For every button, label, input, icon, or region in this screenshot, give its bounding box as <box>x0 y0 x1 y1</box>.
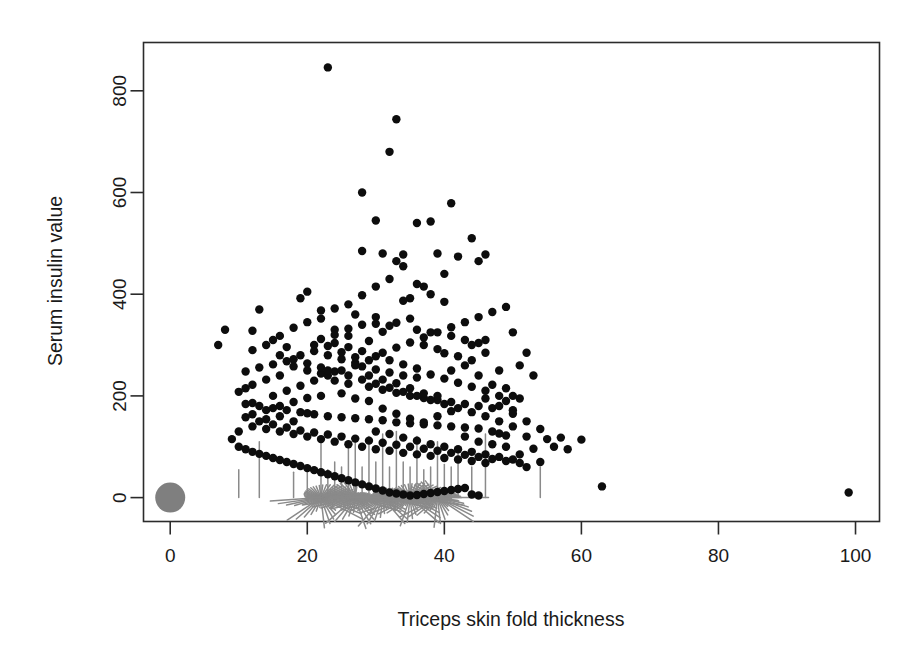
data-point <box>440 443 448 451</box>
data-point <box>358 188 366 196</box>
data-point <box>324 430 332 438</box>
data-point <box>262 425 270 433</box>
data-point <box>474 313 482 321</box>
data-point <box>420 389 428 397</box>
data-point <box>481 412 489 420</box>
data-point <box>481 394 489 402</box>
data-point <box>447 422 455 430</box>
y-tick-label-400: 400 <box>109 278 130 310</box>
data-point <box>474 437 482 445</box>
plot-canvas: 020406080100 0200400600800 Triceps skin … <box>0 0 917 653</box>
data-point <box>392 343 400 351</box>
data-point <box>481 450 489 458</box>
data-point <box>433 421 441 429</box>
data-point <box>262 415 270 423</box>
data-point <box>269 360 277 368</box>
data-point <box>495 402 503 410</box>
data-point <box>598 482 606 490</box>
data-point <box>248 422 256 430</box>
data-point <box>372 445 380 453</box>
y-axis-title: Serum insulin value <box>44 196 66 366</box>
data-point <box>378 328 386 336</box>
y-tick-label-0: 0 <box>109 492 130 503</box>
data-point <box>255 305 263 313</box>
data-point <box>358 321 366 329</box>
figure-background <box>0 0 917 653</box>
data-point <box>481 336 489 344</box>
data-point <box>481 459 489 467</box>
data-point <box>392 418 400 426</box>
data-point <box>283 343 291 351</box>
data-point <box>420 341 428 349</box>
data-point <box>481 348 489 356</box>
data-point <box>344 300 352 308</box>
data-point <box>344 371 352 379</box>
data-point <box>516 450 524 458</box>
y-tick-label-800: 800 <box>109 75 130 107</box>
x-tick-label-0: 0 <box>165 545 176 566</box>
data-point <box>289 417 297 425</box>
data-point <box>454 352 462 360</box>
data-point <box>372 427 380 435</box>
data-point <box>461 361 469 369</box>
y-tick-label-600: 600 <box>109 177 130 209</box>
data-point <box>536 458 544 466</box>
data-point <box>351 310 359 318</box>
data-point <box>468 341 476 349</box>
data-point <box>447 199 455 207</box>
data-point <box>426 217 434 225</box>
data-point <box>522 417 530 425</box>
data-point <box>324 351 332 359</box>
data-point <box>413 364 421 372</box>
data-point <box>337 366 345 374</box>
data-point <box>433 249 441 257</box>
data-point <box>474 491 482 499</box>
data-point <box>365 371 373 379</box>
data-point <box>399 297 407 305</box>
data-point <box>372 216 380 224</box>
data-point <box>522 463 530 471</box>
data-point <box>420 445 428 453</box>
data-point <box>447 332 455 340</box>
data-point <box>269 420 277 428</box>
data-point <box>324 342 332 350</box>
data-point <box>440 374 448 382</box>
data-point <box>468 234 476 242</box>
data-point <box>392 441 400 449</box>
data-point <box>365 436 373 444</box>
data-point <box>303 318 311 326</box>
x-axis-title: Triceps skin fold thickness <box>398 608 625 630</box>
data-point <box>433 412 441 420</box>
data-point <box>385 368 393 376</box>
data-point <box>392 257 400 265</box>
data-point <box>303 394 311 402</box>
data-point <box>262 375 270 383</box>
data-point <box>481 387 489 395</box>
data-point <box>317 335 325 343</box>
data-point <box>399 250 407 258</box>
data-point <box>399 360 407 368</box>
data-point <box>289 398 297 406</box>
data-point <box>474 402 482 410</box>
data-point <box>385 447 393 455</box>
data-point <box>276 351 284 359</box>
data-point <box>406 415 414 423</box>
data-point <box>351 394 359 402</box>
data-point <box>296 294 304 302</box>
data-point <box>310 376 318 384</box>
data-point <box>495 417 503 425</box>
data-point <box>474 424 482 432</box>
data-point <box>433 392 441 400</box>
data-point <box>563 445 571 453</box>
data-point <box>406 314 414 322</box>
data-point <box>235 427 243 435</box>
data-point <box>447 407 455 415</box>
data-point <box>372 365 380 373</box>
data-point <box>303 359 311 367</box>
data-point <box>365 397 373 405</box>
data-point <box>502 443 510 451</box>
data-point <box>502 431 510 439</box>
data-point <box>481 250 489 258</box>
y-tick-label-200: 200 <box>109 380 130 412</box>
data-point <box>351 361 359 369</box>
